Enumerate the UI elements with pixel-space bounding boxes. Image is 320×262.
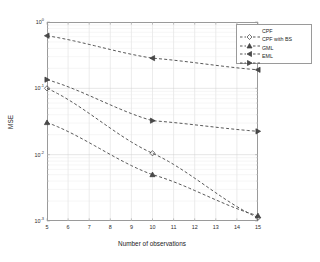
y-tick-label: 10-1 [22, 85, 44, 92]
data-point [150, 56, 155, 61]
x-tick-label: 8 [109, 225, 112, 230]
legend: CPFCPF with BSGMLEML [236, 24, 312, 64]
x-tick-label: 9 [130, 225, 133, 230]
x-tick-label: 5 [46, 225, 49, 230]
x-tick-label: 10 [150, 225, 156, 230]
legend-item-gml[interactable]: GML [239, 44, 309, 53]
legend-label: GML [261, 46, 273, 51]
legend-swatch [239, 36, 261, 44]
x-tick-label: 13 [213, 225, 219, 230]
series-eml [45, 77, 261, 134]
legend-label: EML [261, 54, 273, 59]
y-axis-title: MSE [7, 115, 14, 129]
x-tick-label: 14 [234, 225, 240, 230]
x-tick-label: 11 [171, 225, 177, 230]
legend-item-cpf[interactable]: CPF [239, 27, 309, 36]
x-axis-title: Number of observations [118, 240, 186, 247]
x-tick-label: 6 [67, 225, 70, 230]
legend-item-cpf-with-bs[interactable]: CPF with BS [239, 36, 309, 45]
legend-label: CPF [261, 29, 273, 34]
data-point [150, 118, 155, 123]
series-gml [44, 33, 260, 72]
x-tick-label: 12 [192, 225, 198, 230]
data-point [44, 120, 49, 125]
y-tick-label: 100 [22, 18, 44, 25]
legend-item-eml[interactable]: EML [239, 53, 309, 62]
legend-swatch [239, 44, 261, 52]
figure: 56789101112131415 10010-110-210-3 Number… [0, 0, 320, 262]
x-tick-label: 15 [255, 225, 261, 230]
legend-swatch [239, 27, 261, 35]
y-tick-label: 10-3 [22, 217, 44, 224]
data-point [44, 33, 49, 38]
y-tick-label: 10-2 [22, 151, 44, 158]
data-point [45, 77, 50, 82]
x-tick-label: 7 [88, 225, 91, 230]
data-point [256, 129, 261, 134]
legend-label: CPF with BS [261, 37, 292, 42]
legend-swatch [239, 53, 261, 61]
data-point [255, 67, 260, 72]
